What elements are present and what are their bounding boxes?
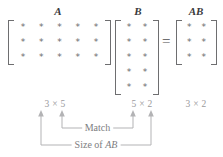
annotation-brackets bbox=[0, 0, 223, 157]
match-label: Match bbox=[82, 123, 114, 133]
size-of-ab-label-prefix: Size of bbox=[75, 139, 106, 150]
matrix-multiplication-figure: A B AB *************** ********** = ****… bbox=[0, 0, 223, 157]
size-of-ab-label-italic: AB bbox=[105, 139, 117, 150]
size-of-ab-label: Size of AB bbox=[72, 140, 121, 150]
